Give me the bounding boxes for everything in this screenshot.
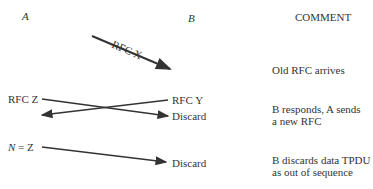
comment-2-line-2: a new RFC bbox=[272, 115, 322, 127]
comment-3-line-1: B discards data TPDU bbox=[272, 154, 370, 166]
comment-1: Old RFC arrives bbox=[272, 64, 345, 76]
n-equals-z-label: N = Z bbox=[8, 141, 34, 153]
comment-2-line-1: B responds, A sends bbox=[272, 103, 361, 115]
column-a-header: A bbox=[22, 10, 29, 22]
arrow-data bbox=[42, 147, 166, 162]
column-b-header: B bbox=[188, 12, 195, 24]
discard-label-2: Discard bbox=[172, 157, 206, 169]
comment-3-line-2: as out of sequence bbox=[272, 166, 353, 178]
rfc-z-label: RFC Z bbox=[8, 93, 38, 105]
discard-label-1: Discard bbox=[172, 110, 206, 122]
rfc-y-label: RFC Y bbox=[172, 94, 203, 106]
comment-header: COMMENT bbox=[295, 11, 351, 23]
